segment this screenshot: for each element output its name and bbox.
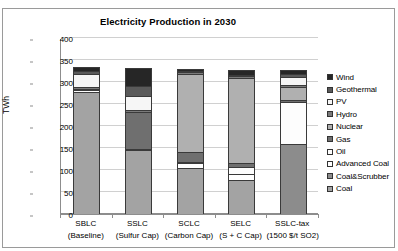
chart-legend: WindGeothermalPVHydroNuclearGasOilAdvanc…	[327, 71, 398, 195]
y-axis-label: TWh	[1, 96, 11, 114]
x-axis-label: SCLC(Carbon Cap)	[163, 218, 215, 241]
gridline	[61, 37, 318, 38]
bar-segment	[228, 78, 255, 164]
y-axis-tick-mark	[30, 83, 33, 84]
bar-segment	[177, 152, 204, 162]
bar-segment	[125, 96, 152, 111]
bar-segment	[125, 112, 152, 149]
y-axis-tick-label: 150	[33, 145, 73, 154]
bar-segment	[125, 86, 152, 96]
x-axis-label: SBLC(Baseline)	[60, 218, 112, 241]
bar-segment	[280, 144, 307, 214]
legend-swatch	[327, 186, 333, 192]
bar-segment	[280, 87, 307, 100]
y-axis-tick-mark	[30, 127, 33, 128]
legend-swatch	[327, 111, 333, 117]
legend-item: Wind	[327, 71, 398, 83]
legend-swatch	[327, 161, 333, 167]
y-axis-tick-label: 350	[33, 57, 73, 66]
legend-item: Hydro	[327, 108, 398, 120]
chart-frame: Electricity Production in 2030 TWh 05010…	[2, 8, 395, 248]
stacked-bar	[73, 67, 100, 214]
bar-segment	[73, 92, 100, 214]
legend-item-label: Wind	[336, 73, 354, 82]
legend-swatch	[327, 87, 333, 93]
legend-item-label: Coal	[336, 184, 352, 193]
legend-item-label: Nuclear	[336, 122, 363, 131]
y-axis-tick-label: 300	[33, 79, 73, 88]
legend-item: Coal&Scrubber	[327, 170, 398, 182]
legend-item-label: Hydro	[336, 110, 357, 119]
bar-segment	[177, 74, 204, 152]
stacked-bar	[228, 70, 255, 214]
x-axis-label-line2: (Baseline)	[60, 230, 112, 242]
legend-item-label: Coal&Scrubber	[336, 172, 389, 181]
legend-swatch	[327, 149, 333, 155]
y-axis-tick-mark	[30, 105, 33, 106]
plot-area	[60, 39, 318, 215]
legend-swatch	[327, 173, 333, 179]
chart-screenshot: Electricity Production in 2030 TWh 05010…	[0, 0, 398, 251]
legend-swatch	[327, 124, 333, 130]
y-axis-tick-label: 400	[33, 35, 73, 44]
y-axis-tick-mark	[30, 61, 33, 62]
stacked-bar	[280, 70, 307, 214]
y-axis-tick-mark	[30, 149, 33, 150]
bar-segment	[280, 77, 307, 85]
x-axis-label-line1: SSLC	[127, 219, 148, 228]
x-axis-label: SSLC-tax(1500 $/t SO2)	[266, 218, 318, 241]
bar-segment	[177, 168, 204, 214]
x-axis-label-line1: SELC	[230, 219, 251, 228]
x-axis-label-line2: (S + C Cap)	[215, 230, 267, 242]
legend-item: PV	[327, 96, 398, 108]
x-axis-label-line2: (Sulfur Cap)	[112, 230, 164, 242]
legend-swatch	[327, 74, 333, 80]
bar-segment	[228, 180, 255, 214]
x-axis-label-line1: SBLC	[75, 219, 96, 228]
y-axis-tick-mark	[30, 39, 33, 40]
x-axis-label: SSLC(Sulfur Cap)	[112, 218, 164, 241]
x-axis-labels: SBLC(Baseline)SSLC(Sulfur Cap)SCLC(Carbo…	[60, 218, 318, 251]
chart-title: Electricity Production in 2030	[3, 16, 333, 27]
x-axis-label-line1: SCLC	[178, 219, 199, 228]
x-axis-label: SELC(S + C Cap)	[215, 218, 267, 241]
y-axis-tick-label: 200	[33, 123, 73, 132]
legend-item-label: Gas	[336, 135, 350, 144]
legend-item-label: Advanced Coal	[336, 159, 389, 168]
legend-item: Geothermal	[327, 83, 398, 95]
bar-segment	[280, 102, 307, 144]
bar-segment	[228, 167, 255, 174]
x-axis-tick-mark	[60, 214, 61, 218]
x-axis-tick-mark	[318, 214, 319, 218]
bar-group	[61, 39, 318, 214]
legend-item-label: Oil	[336, 147, 345, 156]
legend-item: Coal	[327, 183, 398, 195]
legend-item: Gas	[327, 133, 398, 145]
y-axis-tick-mark	[30, 215, 33, 216]
x-axis-label-line2: (1500 $/t SO2)	[266, 230, 318, 242]
bar-segment	[125, 150, 152, 214]
legend-item-label: PV	[336, 97, 346, 106]
x-axis-label-line1: SSLC-tax	[275, 219, 309, 228]
bar-segment	[73, 74, 100, 87]
legend-item: Advanced Coal	[327, 158, 398, 170]
bar-segment	[125, 68, 152, 86]
legend-swatch	[327, 136, 333, 142]
y-axis-tick-label: 250	[33, 101, 73, 110]
y-axis-tick-mark	[30, 171, 33, 172]
stacked-bar	[177, 69, 204, 214]
legend-swatch	[327, 99, 333, 105]
y-axis-tick-label: 50	[33, 189, 73, 198]
legend-item: Nuclear	[327, 121, 398, 133]
y-axis-tick-mark	[30, 193, 33, 194]
x-axis-label-line2: (Carbon Cap)	[163, 230, 215, 242]
legend-item-label: Geothermal	[336, 85, 377, 94]
stacked-bar	[125, 67, 152, 214]
legend-item: Oil	[327, 145, 398, 157]
y-axis-tick-label: 100	[33, 167, 73, 176]
